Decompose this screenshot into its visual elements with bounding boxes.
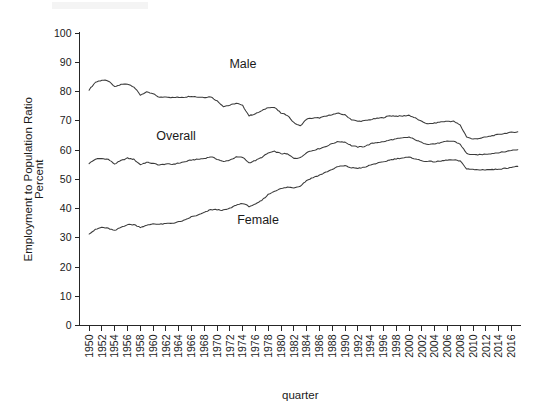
- x-tick-label: 1988: [326, 334, 338, 358]
- y-tick-label: 80: [60, 85, 72, 97]
- series-label-female: Female: [237, 213, 279, 227]
- x-tick-label: 1972: [224, 334, 236, 358]
- x-tick-label: 1996: [377, 334, 389, 358]
- x-tick-label: 2006: [441, 334, 453, 358]
- x-tick-label: 1990: [339, 334, 351, 358]
- y-tick-label: 40: [60, 202, 72, 214]
- x-tick-label: 1980: [275, 334, 287, 358]
- y-tick-label: 90: [60, 56, 72, 68]
- employment-population-ratio-line-chart: 0102030405060708090100 19501952195419561…: [0, 0, 537, 413]
- y-axis-title-line2: Percent: [33, 159, 45, 199]
- y-tick-label: 20: [60, 261, 72, 273]
- y-tick-label: 0: [66, 319, 72, 331]
- series-label-male: Male: [229, 57, 256, 71]
- x-tick-label: 2010: [467, 334, 479, 358]
- x-tick-label: 1994: [364, 334, 376, 358]
- x-tick-label: 1958: [134, 334, 146, 358]
- x-tick-label: 1978: [262, 334, 274, 358]
- x-tick-label: 1966: [185, 334, 197, 358]
- x-tick-label: 2004: [428, 334, 440, 358]
- x-tick-label: 2008: [454, 334, 466, 358]
- chart-figure: 0102030405060708090100 19501952195419561…: [0, 0, 537, 413]
- y-tick-label: 50: [60, 173, 72, 185]
- x-tick-label: 1954: [108, 334, 120, 358]
- y-tick-label: 60: [60, 144, 72, 156]
- y-tick-label: 30: [60, 231, 72, 243]
- scan-artifact-top: [52, 2, 148, 9]
- x-tick-label: 1982: [288, 334, 300, 358]
- x-tick-label: 1998: [390, 334, 402, 358]
- x-tick-label: 2014: [492, 334, 504, 358]
- y-tick-label: 70: [60, 114, 72, 126]
- x-tick-label: 1952: [96, 334, 108, 358]
- x-tick-label: 1960: [147, 334, 159, 358]
- x-tick-label: 2012: [480, 334, 492, 358]
- y-tick-label: 100: [54, 27, 72, 39]
- x-tick-label: 1984: [300, 334, 312, 358]
- x-tick-label: 1968: [198, 334, 210, 358]
- x-tick-label: 1964: [172, 334, 184, 358]
- x-tick-label: 1986: [313, 334, 325, 358]
- x-tick-label: 1950: [83, 334, 95, 358]
- x-tick-label: 1992: [352, 334, 364, 358]
- x-tick-label: 1956: [121, 334, 133, 358]
- x-axis-title: quarter: [282, 389, 319, 401]
- x-tick-label: 1974: [236, 334, 248, 358]
- y-tick-label: 10: [60, 290, 72, 302]
- series-label-overall: Overall: [156, 129, 196, 143]
- x-tick-label: 2000: [403, 334, 415, 358]
- x-tick-label: 1976: [249, 334, 261, 358]
- x-tick-label: 2002: [416, 334, 428, 358]
- x-tick-label: 1970: [211, 334, 223, 358]
- x-tick-label: 1962: [160, 334, 172, 358]
- x-tick-label: 2016: [505, 334, 517, 358]
